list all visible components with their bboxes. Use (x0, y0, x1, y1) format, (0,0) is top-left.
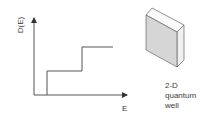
caption-line: 2-D (165, 81, 196, 91)
x-axis-label: E (122, 104, 127, 114)
density-of-states-staircase (47, 47, 113, 95)
caption-line: quantum (165, 91, 196, 101)
caption-line: well (165, 101, 196, 111)
y-axis-label: D(E) (16, 17, 26, 33)
quantum-well-slab-icon (146, 8, 184, 67)
quantum-well-caption: 2-D quantum well (165, 81, 196, 111)
